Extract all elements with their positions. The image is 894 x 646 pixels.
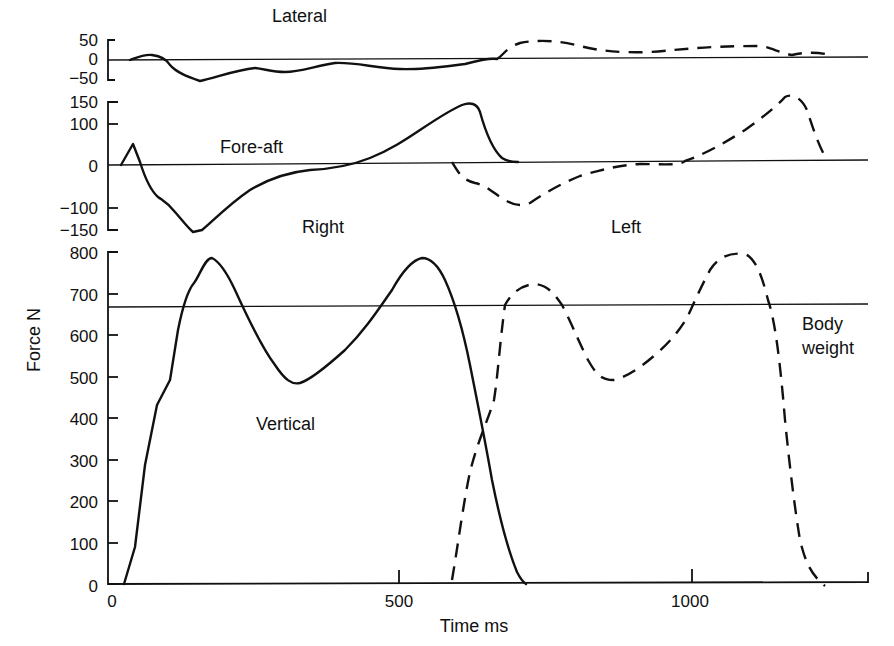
left-foot-label: Left bbox=[611, 217, 641, 237]
x-axis-title: Time ms bbox=[440, 616, 508, 636]
x-tick-0: 0 bbox=[107, 592, 116, 611]
body-weight-label-line2: weight bbox=[801, 338, 854, 358]
fore-aft-tick-0: 0 bbox=[89, 157, 98, 176]
y-tick-400: 400 bbox=[70, 410, 98, 429]
y-tick-500: 500 bbox=[70, 369, 98, 388]
x-tick-500: 500 bbox=[385, 592, 413, 611]
vertical-panel: 800 700 600 500 400 300 200 100 0 0 500 … bbox=[24, 217, 868, 636]
fore-aft-panel: 150 100 0 −100 −150 Fore-aft bbox=[60, 93, 868, 240]
x-tick-1000: 1000 bbox=[671, 592, 709, 611]
y-axis-title: Force N bbox=[24, 308, 44, 372]
fore-aft-left-curve bbox=[452, 96, 827, 205]
y-tick-700: 700 bbox=[70, 286, 98, 305]
fore-aft-right-curve bbox=[121, 103, 518, 232]
y-tick-200: 200 bbox=[70, 493, 98, 512]
lateral-left-curve bbox=[497, 41, 830, 59]
vertical-right-curve bbox=[124, 258, 526, 584]
fore-aft-y-axis bbox=[108, 102, 118, 230]
fore-aft-tick-neg100: −100 bbox=[60, 199, 98, 218]
fore-aft-zero-line bbox=[108, 160, 868, 165]
vertical-left-curve bbox=[452, 254, 825, 586]
lateral-tick-0: 0 bbox=[89, 50, 98, 69]
lateral-tick-neg50: −50 bbox=[69, 69, 98, 88]
right-foot-label: Right bbox=[302, 217, 344, 237]
y-tick-0: 0 bbox=[89, 577, 98, 596]
y-tick-800: 800 bbox=[70, 244, 98, 263]
vertical-label: Vertical bbox=[256, 414, 315, 434]
fore-aft-label: Fore-aft bbox=[220, 137, 283, 157]
body-weight-line bbox=[108, 304, 868, 307]
fore-aft-tick-neg150: −150 bbox=[60, 221, 98, 240]
y-tick-600: 600 bbox=[70, 327, 98, 346]
y-tick-100: 100 bbox=[70, 535, 98, 554]
y-tick-300: 300 bbox=[70, 452, 98, 471]
lateral-panel: 50 0 −50 Lateral bbox=[69, 6, 868, 88]
fore-aft-tick-150: 150 bbox=[70, 93, 98, 112]
lateral-label: Lateral bbox=[272, 6, 327, 26]
fore-aft-tick-100: 100 bbox=[70, 115, 98, 134]
body-weight-label-line1: Body bbox=[802, 314, 843, 334]
lateral-tick-50: 50 bbox=[79, 31, 98, 50]
ground-reaction-force-chart: 50 0 −50 Lateral 150 100 0 −100 −150 For… bbox=[0, 0, 894, 646]
